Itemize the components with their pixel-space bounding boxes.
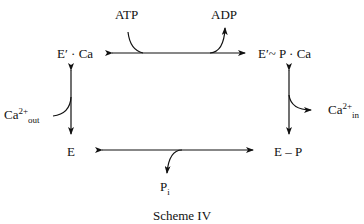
ca-base: Ca xyxy=(328,102,342,117)
state-rest: · Ca xyxy=(68,46,93,61)
state-e-prime-ca: E′ · Ca xyxy=(57,47,93,60)
state-base: E xyxy=(67,144,75,159)
adp-label: ADP xyxy=(211,8,237,21)
ca-in-out-curve xyxy=(289,95,311,110)
ca-base: Ca xyxy=(4,107,18,122)
state-rest: ~ P · Ca xyxy=(269,46,311,61)
state-base: E xyxy=(258,46,266,61)
pi-sub: i xyxy=(167,187,170,197)
ca-out-in-curve xyxy=(53,97,71,116)
ca-in-label: Ca2+in xyxy=(328,103,359,116)
charge-sup: 2+ xyxy=(18,106,28,116)
state-e-prime-p-ca: E′~ P · Ca xyxy=(258,47,311,60)
scheme-caption: Scheme IV xyxy=(0,208,364,224)
reaction-arrows xyxy=(0,0,364,224)
adp-out-curve xyxy=(210,28,225,53)
charge-sup: 2+ xyxy=(342,101,352,111)
pi-out-curve xyxy=(167,150,182,173)
ca-out-label: Ca2+out xyxy=(4,108,40,121)
atp-in-curve xyxy=(128,32,143,53)
state-e-p: E – P xyxy=(274,145,302,158)
state-base: E – P xyxy=(274,144,302,159)
state-e: E xyxy=(67,145,75,158)
location-sub: in xyxy=(352,110,359,120)
state-base: E xyxy=(57,46,65,61)
atp-label: ATP xyxy=(115,8,138,21)
pi-label: Pi xyxy=(160,180,170,193)
location-sub: out xyxy=(28,115,40,125)
